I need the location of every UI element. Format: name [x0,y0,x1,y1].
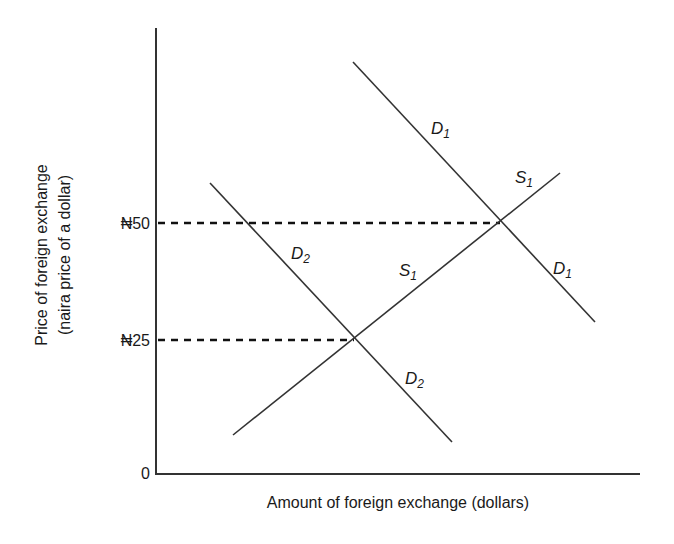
label-s1-lower: S1 [399,261,417,283]
label-d1-upper: D1 [431,119,450,141]
svg-text:D2: D2 [291,244,310,266]
label-d2-lower: D2 [405,369,424,391]
svg-text:S1: S1 [515,168,533,190]
y-axis-title-line1: Price of foreign exchange [33,164,50,346]
y-tick-25: ₦25 [121,332,150,349]
supply-curve-s1 [233,173,560,435]
label-d1-lower: D1 [553,259,572,281]
svg-text:D1: D1 [553,259,572,281]
y-axis-title-line2: (naira price of a dollar) [56,175,73,335]
y-tick-50: ₦50 [121,215,150,232]
label-d2-upper: D2 [291,244,310,266]
label-s1-upper: S1 [515,168,533,190]
origin-label: 0 [141,465,150,482]
svg-text:S1: S1 [399,261,417,283]
svg-text:D1: D1 [431,119,450,141]
demand-curve-d1 [353,62,595,322]
exchange-rate-diagram: ₦50 ₦25 0 Amount of foreign exchange (do… [0,0,674,544]
x-axis-title: Amount of foreign exchange (dollars) [267,494,529,511]
svg-text:D2: D2 [405,369,424,391]
